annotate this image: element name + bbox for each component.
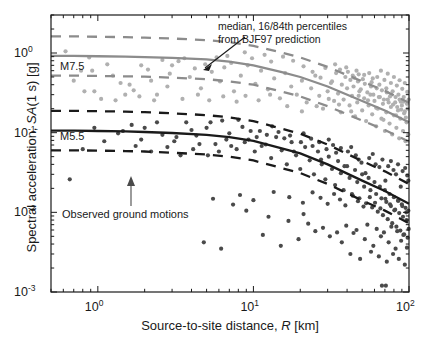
x-axis-label: Source-to-site distance, R [km] <box>51 318 409 333</box>
y-tick-label-2: 10-2 <box>14 203 35 219</box>
plot-area <box>0 0 426 339</box>
y-tick-label-1: 10-1 <box>14 124 35 140</box>
x-tick-label-1: 101 <box>240 298 259 314</box>
figure: Spectral acceleration, SA(1 s) [g] Sourc… <box>0 0 426 339</box>
y-axis-label: Spectral acceleration, SA(1 s) [g] <box>24 33 39 283</box>
m75-label: M7.5 <box>60 60 84 72</box>
curve-0 <box>51 56 409 122</box>
y-tick-label-3: 10-3 <box>14 283 35 299</box>
scatter-layer <box>63 49 410 288</box>
y-tick-label-0: 100 <box>14 44 33 60</box>
prediction-annotation-line1: median, 16/84th percentiles <box>218 20 347 33</box>
prediction-annotation: median, 16/84th percentiles from BJF97 p… <box>218 20 347 45</box>
y-axis-label-text: Spectral acceleration, SA(1 s) [g] <box>24 62 39 252</box>
x-axis-label-text: Source-to-site distance, R [km] <box>141 318 319 333</box>
scatter-series-1 <box>68 118 411 288</box>
m55-label: M5.5 <box>60 130 84 142</box>
observed-arrow-head <box>127 176 135 186</box>
observed-annotation: Observed ground motions <box>62 208 189 221</box>
x-tick-label-0: 100 <box>85 298 104 314</box>
x-tick-label-2: 102 <box>396 298 415 314</box>
prediction-annotation-line2: from BJF97 prediction <box>218 33 347 46</box>
